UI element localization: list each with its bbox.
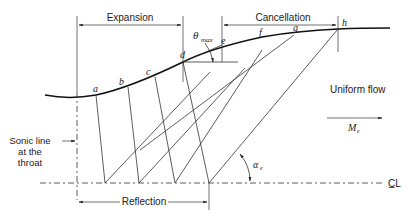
sonic-line-label: Sonic line at the throat [9,135,75,168]
point-d: d [180,49,186,60]
point-b: b [119,76,124,87]
theta-max-subscript: max [201,36,214,44]
expansion-dimension: Expansion [77,12,183,92]
centerline-symbol: C̲L [388,178,401,189]
alpha-exit-symbol: α [253,159,259,170]
reflected-characteristics [105,29,338,183]
sonic-line-text-2: at the [18,146,42,157]
alpha-exit-subscript: e [260,165,263,171]
reflection-label: Reflection [122,196,166,207]
expansion-label: Expansion [107,12,154,23]
alpha-exit-angle: α e [240,154,263,181]
point-g: g [293,22,298,33]
nozzle-diagram: Expansion Cancellation Reflection [0,0,414,224]
uniform-flow-label: Uniform flow [330,84,386,95]
mach-exit-subscript: e [357,128,360,134]
point-c: c [146,66,151,77]
point-h: h [342,17,347,28]
sonic-line-text-3: throat [18,157,43,168]
cancellation-label: Cancellation [255,12,310,23]
mach-exit-symbol: M [347,122,357,133]
sonic-line-text-1: Sonic line [9,135,50,146]
cancellation-dimension: Cancellation [222,12,338,62]
reflection-dimension: Reflection [79,183,209,210]
expansion-characteristics [96,62,209,183]
point-e: e [221,35,226,46]
mach-exit-arrow: M e [327,118,382,134]
theta-max-symbol: θ [193,29,199,41]
point-a: a [93,83,98,94]
